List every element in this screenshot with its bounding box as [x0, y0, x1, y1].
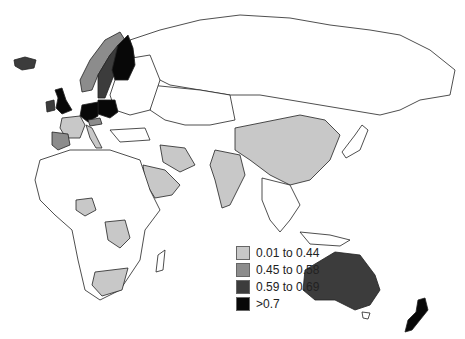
region-tasmania: [362, 312, 370, 319]
region-spain: [52, 132, 70, 150]
region-ireland: [46, 100, 55, 112]
region-poland: [98, 100, 118, 118]
legend-swatch: [236, 263, 250, 277]
region-madagascar: [156, 250, 165, 272]
legend-label: 0.45 to 0.58: [256, 263, 319, 277]
map-legend: 0.01 to 0.44 0.45 to 0.58 0.59 to 0.69 >…: [236, 244, 319, 312]
region-iran: [160, 145, 195, 172]
region-italy: [86, 125, 102, 148]
legend-item: >0.7: [236, 295, 319, 312]
legend-label: >0.7: [256, 297, 280, 311]
region-southeast-asia: [262, 178, 300, 232]
legend-swatch: [236, 297, 250, 311]
legend-item: 0.01 to 0.44: [236, 244, 319, 261]
region-india: [210, 150, 245, 208]
legend-item: 0.59 to 0.69: [236, 278, 319, 295]
region-new-zealand: [405, 298, 428, 332]
region-uk: [55, 88, 72, 114]
region-iceland: [14, 57, 36, 70]
region-turkey: [110, 128, 150, 142]
legend-label: 0.59 to 0.69: [256, 280, 319, 294]
legend-label: 0.01 to 0.44: [256, 246, 319, 260]
legend-swatch: [236, 246, 250, 260]
legend-item: 0.45 to 0.58: [236, 261, 319, 278]
region-japan: [342, 125, 368, 158]
map-canvas: [0, 0, 465, 339]
choropleth-map: 0.01 to 0.44 0.45 to 0.58 0.59 to 0.69 >…: [0, 0, 465, 339]
region-china: [235, 115, 340, 185]
legend-swatch: [236, 280, 250, 294]
